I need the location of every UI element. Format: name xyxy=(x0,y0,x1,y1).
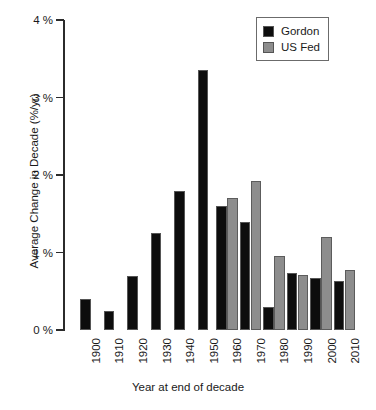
bar-group xyxy=(167,20,191,330)
bar-gordon xyxy=(198,70,209,330)
x-axis-tick-label: 1930 xyxy=(161,338,173,364)
bar-gordon xyxy=(334,281,345,330)
plot-area: 0 %1 %2 %3 %4 % 190019101920193019401950… xyxy=(73,20,356,330)
y-axis-title: Average Change in Decade (%/yr) xyxy=(28,51,40,311)
bar-group xyxy=(97,20,121,330)
x-axis-tick-label: 1980 xyxy=(278,338,290,364)
x-axis-tick-label: 1910 xyxy=(113,338,125,364)
bar-us-fed xyxy=(227,198,238,330)
legend-item-gordon: Gordon xyxy=(263,23,320,39)
black-square-icon xyxy=(263,26,274,37)
bar-gordon xyxy=(127,276,138,330)
x-axis-tick-label: 1990 xyxy=(302,338,314,364)
y-axis-tick xyxy=(56,329,64,331)
x-axis-title: Year at end of decade xyxy=(0,381,376,393)
legend-item-us-fed: US Fed xyxy=(263,39,320,55)
bar-us-fed xyxy=(321,237,332,330)
y-axis-tick-label: 0 % xyxy=(33,324,53,336)
y-axis-tick xyxy=(56,252,64,254)
bar-gordon xyxy=(174,191,185,331)
bar-gordon xyxy=(104,311,115,330)
bar-group xyxy=(215,20,239,330)
x-axis-tick-label: 1950 xyxy=(208,338,220,364)
bar-gordon xyxy=(80,299,91,330)
bar-us-fed xyxy=(251,181,262,330)
bar-gordon xyxy=(240,222,251,331)
bar-group xyxy=(238,20,262,330)
x-axis-tick-label: 1960 xyxy=(231,338,243,364)
bar-group xyxy=(120,20,144,330)
bar-gordon xyxy=(310,278,321,330)
x-axis-tick-label: 1970 xyxy=(255,338,267,364)
y-axis-tick-label: 4 % xyxy=(33,14,53,26)
y-axis-tick xyxy=(56,19,64,21)
y-axis-tick xyxy=(56,174,64,176)
bar-gordon xyxy=(216,206,227,330)
legend-label: Gordon xyxy=(281,25,319,37)
x-axis-tick-label: 2010 xyxy=(349,338,361,364)
x-axis-tick-label: 2000 xyxy=(326,338,338,364)
x-axis-tick-label: 1940 xyxy=(184,338,196,364)
bar-group xyxy=(332,20,356,330)
bar-us-fed xyxy=(274,256,285,330)
legend-label: US Fed xyxy=(281,41,320,53)
y-axis-tick xyxy=(56,97,64,99)
bar-gordon xyxy=(287,273,298,330)
x-axis-tick-label: 1900 xyxy=(90,338,102,364)
y-axis-tick-label: 2 % xyxy=(33,169,53,181)
y-axis-tick-label: 3 % xyxy=(33,92,53,104)
bar-gordon xyxy=(263,307,274,330)
bar-gordon xyxy=(151,233,162,330)
bar-us-fed xyxy=(345,270,356,330)
legend: Gordon US Fed xyxy=(256,17,329,61)
bar-group xyxy=(191,20,215,330)
bar-group xyxy=(309,20,333,330)
bar-chart: Average Change in Decade (%/yr) 0 %1 %2 … xyxy=(0,0,376,410)
bar-us-fed xyxy=(298,275,309,330)
bar-group xyxy=(73,20,97,330)
gray-square-icon xyxy=(263,42,274,53)
bar-group xyxy=(262,20,286,330)
x-axis-tick-label: 1920 xyxy=(137,338,149,364)
y-axis-tick-label: 1 % xyxy=(33,247,53,259)
bar-group xyxy=(144,20,168,330)
bar-series-container xyxy=(73,20,356,330)
bar-group xyxy=(285,20,309,330)
